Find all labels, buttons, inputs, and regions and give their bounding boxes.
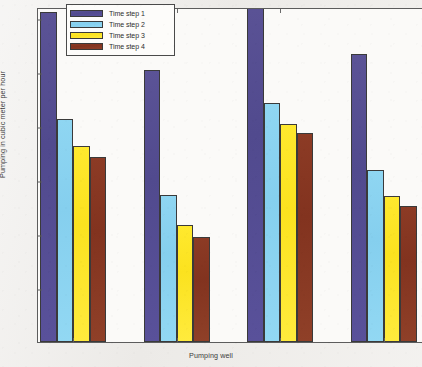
y-tick-mark [38,73,42,74]
legend: Time step 1Time step 2Time step 3Time st… [66,4,175,56]
legend-swatch-icon [70,21,103,29]
bar-4-group-2 [193,237,210,342]
legend-item-1: Time step 1 [70,8,170,19]
y-tick-label: 400 [37,124,38,131]
legend-swatch-icon [70,10,103,18]
top-tick-mark [280,9,281,13]
bar-3-group-2 [177,225,194,342]
legend-item-3: Time step 3 [70,30,170,41]
bar-2-group-1 [57,119,74,342]
bar-1-group-2 [144,70,161,342]
bar-1-group-4 [351,54,368,342]
bar-2-group-2 [160,195,177,343]
legend-label: Time step 4 [109,43,145,50]
legend-label: Time step 2 [109,21,145,28]
legend-item-2: Time step 2 [70,19,170,30]
y-tick-mark [38,127,42,128]
x-tick-mark [280,338,281,342]
y-tick-label: 500 [37,70,38,77]
y-tick-label: 200 [37,232,38,239]
bar-1-group-1 [40,12,57,342]
bar-4-group-1 [90,157,107,342]
bar-3-group-4 [384,196,401,342]
bar-2-group-3 [264,103,281,342]
bar-1-group-3 [247,8,264,342]
y-tick-label: 300 [37,178,38,185]
y-axis-label: Pumping in cubic meter per hour [0,71,7,178]
plot-area: 0100200300400500600 1234 [37,8,422,343]
y-tick-mark [38,19,42,20]
bar-4-group-4 [400,206,417,342]
bar-2-group-4 [367,170,384,342]
bar-4-group-3 [297,133,314,342]
y-tick-mark [38,181,42,182]
y-tick-label: 100 [37,286,38,293]
y-tick-mark [38,235,42,236]
x-tick-mark [73,338,74,342]
chart-page: 0100200300400500600 1234 Pumping in cubi… [0,0,422,367]
bar-3-group-3 [280,124,297,342]
y-tick-mark [38,289,42,290]
x-axis-label: Pumping well [0,351,422,360]
y-tick-label: 600 [37,16,38,23]
legend-label: Time step 3 [109,32,145,39]
legend-label: Time step 1 [109,10,145,17]
legend-swatch-icon [70,32,103,40]
bar-series-container [38,9,422,342]
bar-3-group-1 [73,146,90,342]
legend-item-4: Time step 4 [70,41,170,52]
legend-swatch-icon [70,43,103,51]
x-tick-mark [384,338,385,342]
top-tick-mark [177,9,178,13]
x-tick-mark [177,338,178,342]
y-tick-label: 0 [37,341,38,344]
